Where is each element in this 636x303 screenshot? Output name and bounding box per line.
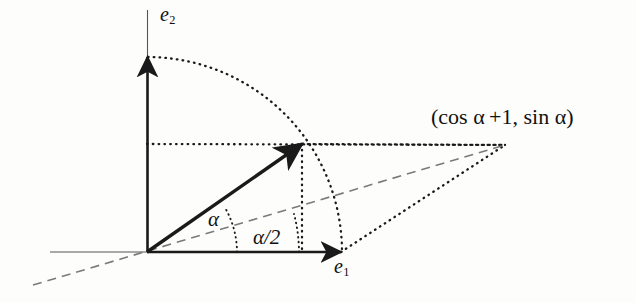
angle-half-arc	[294, 214, 299, 252]
diagram-canvas	[0, 0, 636, 303]
x-axis-label: e1	[334, 256, 349, 279]
unit-to-sum-segment	[341, 145, 505, 252]
y-axis-label: e2	[160, 4, 175, 27]
geometry-figure: e1 e2 α α/2 (cos α +1, sin α)	[0, 0, 636, 303]
x-axis-label-letter: e	[334, 255, 343, 277]
unit-circle-arc	[148, 57, 342, 252]
angle-alpha-arc	[226, 209, 238, 253]
y-axis-label-letter: e	[160, 3, 169, 25]
sum-point-label: (cos α +1, sin α)	[431, 106, 574, 128]
angle-alpha-label: α	[208, 209, 219, 230]
y-axis-label-subscript: 2	[169, 13, 175, 27]
x-axis-label-subscript: 1	[343, 265, 349, 279]
angle-half-label: α/2	[253, 227, 280, 248]
